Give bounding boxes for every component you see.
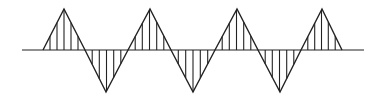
triangle-wave-diagram [0, 0, 385, 99]
